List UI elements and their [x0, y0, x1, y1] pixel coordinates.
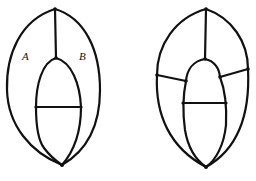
vertex — [54, 56, 58, 60]
left-graph: A B — [7, 7, 100, 167]
vertex — [224, 101, 227, 104]
vertex — [79, 105, 82, 108]
vertex — [204, 165, 208, 169]
vertex — [184, 79, 188, 83]
inner-left-arc — [184, 59, 206, 167]
top-spoke — [205, 9, 206, 59]
inner-left-arc — [36, 58, 62, 165]
region-label-a: A — [21, 50, 29, 62]
top-spoke — [55, 9, 56, 58]
left-spoke — [157, 75, 186, 81]
right-spoke — [220, 69, 248, 77]
vertex — [155, 73, 159, 77]
vertex — [181, 101, 184, 104]
vertex — [246, 67, 250, 71]
outer-left-arc — [7, 9, 62, 165]
vertex — [203, 57, 207, 61]
vertex — [53, 7, 57, 11]
region-label-b: B — [79, 50, 86, 62]
diagram-canvas: A B — [0, 0, 256, 181]
vertex — [60, 163, 64, 167]
vertex — [34, 105, 37, 108]
vertex — [204, 7, 208, 11]
vertex — [218, 75, 222, 79]
inner-right-arc — [56, 58, 81, 165]
right-graph — [155, 7, 250, 169]
outer-right-arc — [206, 9, 248, 167]
outer-left-arc — [157, 9, 206, 167]
